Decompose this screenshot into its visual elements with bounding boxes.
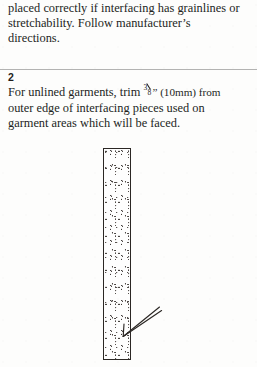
step-text-after-fraction: ” (10mm) from bbox=[152, 86, 220, 98]
step-number: 2 bbox=[8, 71, 14, 83]
section-divider bbox=[0, 69, 257, 70]
paragraph-line: directions. bbox=[8, 31, 252, 46]
trim-edge-pointer-icon bbox=[112, 305, 172, 347]
illustration bbox=[0, 140, 257, 367]
fraction-denominator: 8 bbox=[148, 89, 152, 97]
paragraph-line: garment areas which will be faced. bbox=[8, 116, 252, 131]
continued-paragraph: placed correctly if interfacing has grai… bbox=[8, 1, 252, 47]
paragraph-line: placed correctly if interfacing has grai… bbox=[8, 1, 252, 16]
paragraph-line: outer edge of interfacing pieces used on bbox=[8, 101, 252, 116]
paragraph-line: For unlined garments, trim 38” (10mm) fr… bbox=[8, 84, 252, 101]
paragraph-line: stretchability. Follow manufacturer’s bbox=[8, 16, 252, 31]
fraction-three-eighths: 38 bbox=[143, 84, 152, 96]
step-text-before-fraction: For unlined garments, trim bbox=[8, 85, 143, 99]
scanned-instruction-page: placed correctly if interfacing has grai… bbox=[0, 0, 257, 367]
step-paragraph: For unlined garments, trim 38” (10mm) fr… bbox=[8, 84, 252, 131]
